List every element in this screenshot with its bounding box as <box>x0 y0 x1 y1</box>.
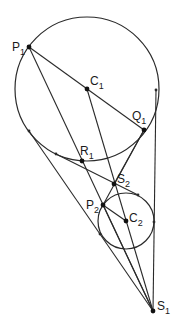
point-p1 <box>27 45 32 50</box>
label-s1: S1 <box>157 299 170 316</box>
tangent-point-5 <box>153 221 156 224</box>
point-c1 <box>85 87 90 92</box>
label-c1: C1 <box>90 74 104 91</box>
point-s1 <box>151 309 156 314</box>
point-r1 <box>80 159 85 164</box>
geometry-diagram: P1C1Q1R1S2P2C2S1 <box>0 0 176 331</box>
label-p2: P2 <box>86 198 99 215</box>
segment-4 <box>153 90 156 311</box>
point-p2 <box>101 203 106 208</box>
tangent-point-3 <box>137 194 140 197</box>
label-p1: P1 <box>12 40 25 57</box>
point-c2 <box>124 219 129 224</box>
label-c2: C2 <box>129 211 143 228</box>
tangent-point-0 <box>155 89 158 92</box>
tangent-point-2 <box>55 153 58 156</box>
label-r1: R1 <box>80 144 94 161</box>
label-s2: S2 <box>117 172 130 189</box>
tangent-point-1 <box>28 130 31 133</box>
tangent-point-4 <box>99 233 102 236</box>
point-q1 <box>142 128 147 133</box>
point-s2 <box>112 182 117 187</box>
